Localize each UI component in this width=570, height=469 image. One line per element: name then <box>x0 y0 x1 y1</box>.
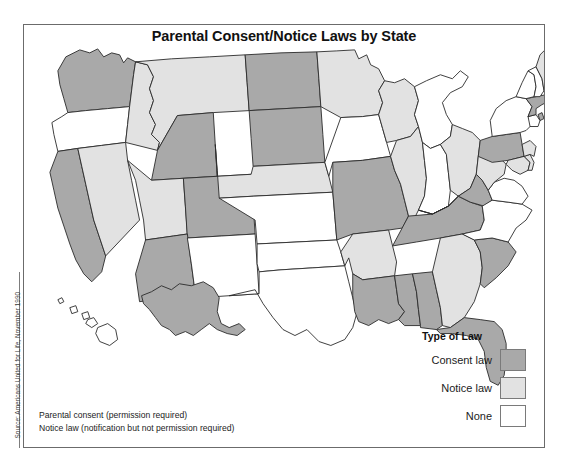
caption-line-2: Notice law (notification but not permiss… <box>39 422 234 435</box>
legend: Type of Law Consent law Notice law None <box>394 330 526 433</box>
caption-line-1: Parental consent (permission required) <box>39 409 234 422</box>
state-WI[interactable] <box>379 79 419 143</box>
state-HI-4[interactable] <box>86 318 98 328</box>
caption-block: Parental consent (permission required) N… <box>39 409 234 435</box>
state-HI[interactable] <box>58 298 64 304</box>
map-figure: Source: Americans United for Life, Novem… <box>0 0 570 469</box>
legend-item-none[interactable]: None <box>394 405 526 427</box>
legend-label-consent: Consent law <box>431 354 492 366</box>
state-ND[interactable] <box>245 52 321 111</box>
map-frame: Parental Consent/Notice Laws by State <box>23 24 545 448</box>
state-SD[interactable] <box>249 107 325 167</box>
legend-label-none: None <box>466 410 492 422</box>
source-credit: Source: Americans United for Life, Novem… <box>14 273 21 439</box>
state-NY[interactable] <box>490 97 532 137</box>
state-MN[interactable] <box>317 50 385 118</box>
legend-swatch-consent <box>500 349 526 371</box>
legend-item-consent[interactable]: Consent law <box>394 349 526 371</box>
state-VT[interactable] <box>516 71 536 99</box>
state-HI-5[interactable] <box>96 324 118 346</box>
state-WA[interactable] <box>58 49 136 113</box>
state-HI-2[interactable] <box>70 306 78 314</box>
legend-label-notice: Notice law <box>441 382 492 394</box>
legend-swatch-none <box>500 405 526 427</box>
state-HI-3[interactable] <box>82 312 90 320</box>
legend-title: Type of Law <box>394 330 526 342</box>
legend-swatch-notice <box>500 377 526 399</box>
legend-item-notice[interactable]: Notice law <box>394 377 526 399</box>
state-AR[interactable] <box>341 230 397 280</box>
state-NJ[interactable] <box>522 140 536 156</box>
